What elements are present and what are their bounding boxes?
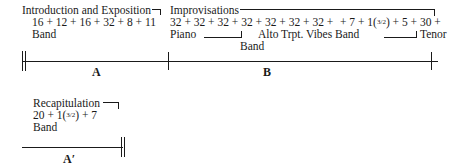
recap-instrument: Band <box>33 121 57 133</box>
improv-fraction: 3/2 <box>377 18 386 26</box>
improv-band-label: Band <box>240 40 264 52</box>
final-barline-2 <box>124 137 125 157</box>
section-label-a: A <box>92 66 101 78</box>
recap-measures-post: ) + 7 <box>75 109 97 121</box>
soloist-tenor: Tenor <box>420 28 447 40</box>
recap-title: Recapitulation <box>33 97 100 109</box>
improv-bracket-v <box>434 9 435 16</box>
timeline-recap <box>22 147 123 148</box>
recap-bracket-v <box>118 102 119 109</box>
b-end-tick <box>431 52 432 70</box>
intro-title: Introduction and Exposition <box>22 4 151 16</box>
section-label-a-prime: A′ <box>63 153 75 165</box>
band-bracket-v <box>416 31 417 38</box>
intro-measures: 16 + 12 + 16 + 32 + 8 + 11 <box>32 16 156 28</box>
band-bracket-h <box>384 37 417 38</box>
improv-measures-2-post: ) + 5 + 30 + <box>386 16 441 28</box>
soloist-piano: Piano <box>170 28 196 40</box>
section-label-b: B <box>263 66 271 78</box>
piano-bracket-v <box>241 31 242 38</box>
improv-measures-2-pre: + 7 + 1( <box>340 16 377 28</box>
improv-measures-1: 32 + 32 + 32 + 32 + 32 + 32 + 32 + <box>170 16 333 28</box>
recap-measures: 20 + 1(3/2) + 7 <box>33 109 97 121</box>
piano-bracket-h <box>204 37 242 38</box>
intro-bracket-v <box>160 9 161 15</box>
improv-title: Improvisations <box>170 4 239 16</box>
timeline-main <box>23 61 438 62</box>
recap-fraction: 3/2 <box>66 111 75 119</box>
improv-measures-2: + 7 + 1(3/2) + 5 + 30 + <box>340 16 441 28</box>
final-barline-1 <box>121 137 122 157</box>
soloists-mid: Alto Trpt. Vibes Band <box>258 28 359 40</box>
improv-bracket-h <box>240 9 435 10</box>
intro-instrument: Band <box>32 28 56 40</box>
start-barline-2 <box>25 51 26 71</box>
recap-bracket-h <box>103 102 119 103</box>
start-barline-1 <box>22 51 23 71</box>
ab-divider <box>168 52 169 70</box>
recap-measures-pre: 20 + 1( <box>33 109 66 121</box>
